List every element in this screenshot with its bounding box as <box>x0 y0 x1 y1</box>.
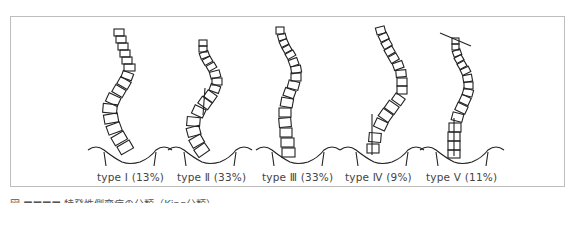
type-1-label: type Ⅰ (13%) <box>97 171 164 183</box>
spine-type-2 <box>186 40 222 158</box>
spine-type-5 <box>440 33 474 158</box>
type-2-label: type Ⅱ (33%) <box>177 171 246 183</box>
figure-caption: 図 ■■■■ 特発性側弯症の分類（King分類） <box>10 196 216 203</box>
pelvis-icons <box>88 147 504 166</box>
type-4-label: type Ⅳ (9%) <box>345 171 412 183</box>
spine-type-1 <box>103 29 135 155</box>
type-5-label: type Ⅴ (11%) <box>426 171 497 183</box>
type-3-label: type Ⅲ (33%) <box>262 171 333 183</box>
spine-type-3 <box>276 27 302 157</box>
spine-type-4 <box>367 26 407 155</box>
